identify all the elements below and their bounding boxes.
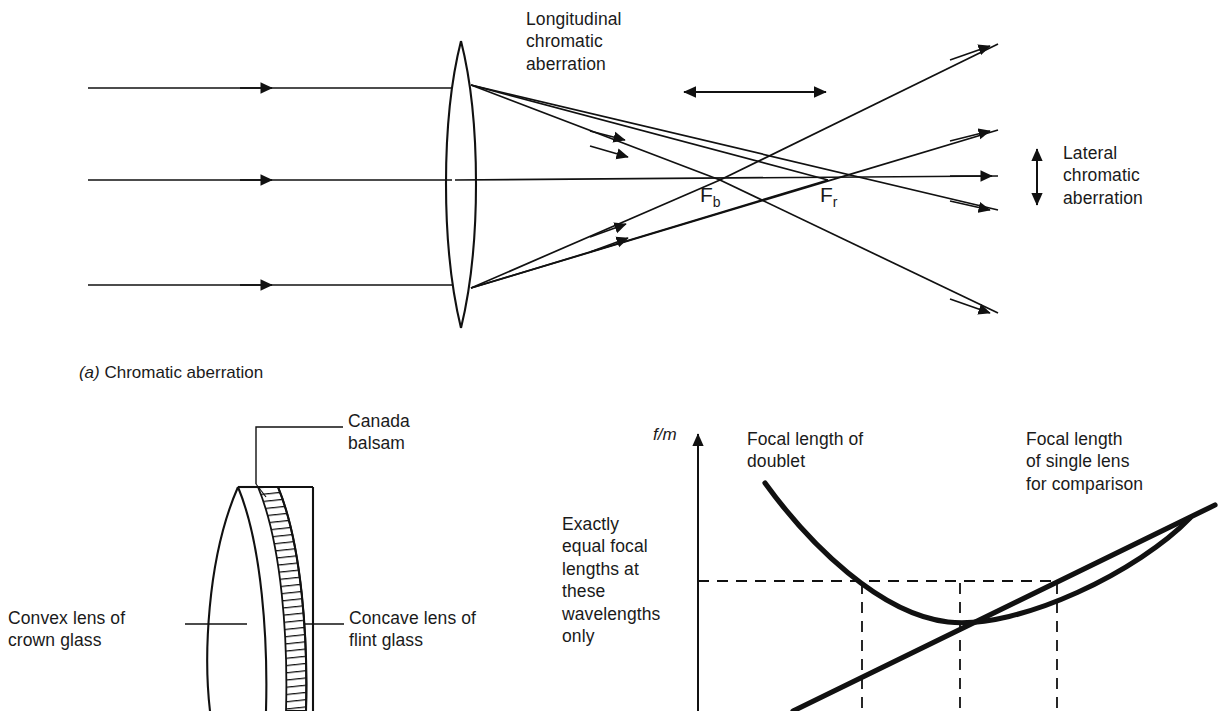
single-lens-focal-length-line xyxy=(793,505,1215,711)
single-lens-series-label: Focal length of single lens for comparis… xyxy=(1026,428,1143,495)
chart-annotation-dashed-lines xyxy=(698,581,1060,711)
equal-focal-lengths-note: Exactly equal focal lengths at these wav… xyxy=(562,513,660,647)
chart-y-axis-label: f/m xyxy=(653,424,677,446)
doublet-focal-length-curve xyxy=(765,483,1190,623)
figure-canvas: Longitudinal chromatic aberration Latera… xyxy=(0,0,1227,711)
doublet-series-label: Focal length of doublet xyxy=(747,428,863,473)
